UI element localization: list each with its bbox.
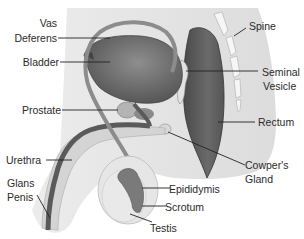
label-urethra: Urethra (6, 154, 41, 166)
label-seminal-vesicle-line2: Vesicle (263, 80, 296, 92)
label-scrotum: Scrotum (165, 201, 204, 213)
label-glans-penis-line2: Penis (7, 191, 33, 203)
label-rectum: Rectum (258, 116, 294, 128)
label-glans-penis-line1: Glans (7, 177, 34, 189)
label-spine: Spine (249, 20, 276, 32)
label-testis: Testis (150, 222, 177, 234)
label-vas-deferens-line2: Deferens (14, 32, 57, 44)
label-vas-deferens-line1: Vas (40, 17, 57, 29)
label-cowpers-gland-line2: Gland (245, 173, 273, 185)
label-bladder: Bladder (23, 56, 59, 68)
label-epididymis: Epididymis (169, 183, 220, 195)
label-seminal-vesicle-line1: Seminal (262, 66, 300, 78)
label-prostate: Prostate (22, 104, 61, 116)
label-cowpers-gland-line1: Cowper's (245, 159, 288, 171)
